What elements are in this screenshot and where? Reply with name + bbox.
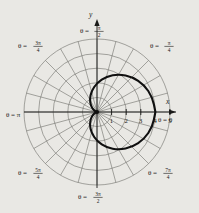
- angle-label-denominator: 2: [97, 198, 100, 204]
- polar-plot-svg: 12345 y x θ = 0θ =π4θ =π2θ =3π4θ = πθ =5…: [0, 0, 199, 213]
- angle-label-numerator: π: [98, 25, 101, 31]
- angle-label-text: θ =: [18, 42, 27, 50]
- angle-label-numerator: π: [168, 40, 171, 46]
- angle-label-denominator: 4: [168, 47, 171, 53]
- angle-label-text: θ =: [148, 169, 157, 177]
- angle-label-text: θ = 0: [158, 116, 173, 124]
- angle-label-numerator: 7π: [165, 167, 171, 173]
- angle-label-text: θ =: [80, 27, 89, 35]
- angle-label-text: θ =: [78, 193, 87, 201]
- x-axis-label: x: [165, 97, 170, 106]
- origin-point: [95, 110, 99, 114]
- angle-label-numerator: 3π: [95, 191, 101, 197]
- x-tick-label-2: 2: [124, 117, 127, 124]
- polar-graph-figure: 12345 y x θ = 0θ =π4θ =π2θ =3π4θ = πθ =5…: [0, 0, 199, 213]
- angle-label-theta-pi: θ = π: [6, 111, 21, 119]
- x-tick-label-1: 1: [110, 117, 113, 124]
- angle-label-denominator: 2: [98, 32, 101, 38]
- angle-label-denominator: 4: [37, 47, 40, 53]
- angle-label-numerator: 5π: [35, 167, 41, 173]
- angle-label-text: θ =: [150, 42, 159, 50]
- angle-label-theta-0: θ = 0: [158, 116, 173, 124]
- angle-label-text: θ =: [18, 169, 27, 177]
- angle-label-denominator: 4: [167, 174, 170, 180]
- angle-label-text: θ = π: [6, 111, 21, 119]
- angle-label-denominator: 4: [37, 174, 40, 180]
- y-axis-label: y: [88, 10, 93, 19]
- angle-label-numerator: 3π: [35, 40, 41, 46]
